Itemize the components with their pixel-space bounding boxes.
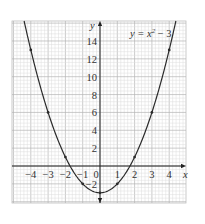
data-point	[47, 111, 50, 114]
x-tick-label: −3	[43, 169, 54, 180]
y-tick-label: 2	[92, 143, 97, 154]
data-point	[99, 191, 102, 194]
y-tick-label: 8	[92, 90, 97, 101]
data-point	[151, 111, 154, 114]
data-point	[116, 182, 119, 185]
data-point	[168, 49, 171, 52]
x-tick-label: −2	[60, 169, 71, 180]
x-tick-label: 3	[149, 169, 154, 180]
equation-lhs: y = x	[129, 28, 152, 39]
x-tick-label: 2	[132, 169, 137, 180]
x-tick-label: 1	[115, 169, 120, 180]
data-point	[133, 156, 136, 159]
y-tick-label: 4	[92, 125, 98, 136]
x-axis-label: x	[182, 169, 188, 180]
x-tick-label: 4	[167, 169, 173, 180]
data-point	[29, 49, 32, 52]
data-point	[64, 156, 67, 159]
y-tick-label: 6	[92, 107, 97, 118]
y-tick-label: 10	[87, 72, 98, 83]
data-point	[81, 182, 84, 185]
x-tick-label: −4	[25, 169, 37, 180]
y-tick-label: 12	[87, 54, 98, 65]
y-axis-label: y	[89, 20, 95, 31]
y-tick-label: 14	[87, 36, 98, 47]
equation-label: y = x2 − 3	[129, 27, 172, 39]
equation-rhs: − 3	[155, 28, 171, 39]
parabola-chart: −4−3−2−101234−22468101214 y x y = x2 − 3	[0, 0, 205, 224]
